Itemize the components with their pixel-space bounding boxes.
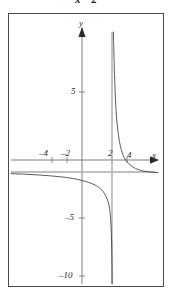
y-tick-label-minus5: –5 [65, 212, 74, 222]
x-tick-label-4: 4 [127, 150, 132, 160]
graph-canvas [9, 14, 163, 286]
plot-frame: –4 –2 2 4 5 –5 –10 x y [8, 13, 164, 287]
y-axis-label: y [79, 18, 83, 28]
x-tick-label-minus4: –4 [39, 148, 48, 158]
y-tick-label-5: 5 [71, 86, 76, 96]
x-tick-label-minus2: –2 [61, 148, 70, 158]
x-axis-label: x [152, 150, 156, 160]
formula-caption-partial: x− 2 [0, 0, 172, 5]
curve-left-branch [11, 174, 112, 284]
y-tick-label-minus10: –10 [59, 270, 73, 280]
y-axis-arrow-icon [78, 27, 85, 37]
figure-page: x− 2 [0, 0, 172, 294]
formula-remainder: − 2 [81, 0, 97, 5]
x-tick-label-2: 2 [108, 148, 113, 158]
